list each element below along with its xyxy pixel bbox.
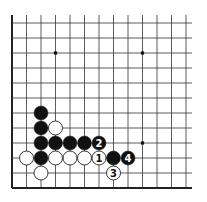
black-stone-move-4: 4	[121, 151, 135, 165]
white-stone	[49, 121, 63, 135]
black-stone	[49, 136, 63, 150]
move-number: 4	[125, 153, 132, 164]
black-stone	[34, 106, 48, 120]
white-stone	[63, 151, 77, 165]
white-stone	[20, 151, 34, 165]
white-stone	[49, 151, 63, 165]
move-number: 3	[110, 168, 117, 179]
white-stone-move-3: 3	[107, 166, 121, 180]
black-stone-move-2: 2	[92, 136, 106, 150]
black-stone	[78, 136, 92, 150]
black-stone	[107, 151, 121, 165]
move-number: 1	[96, 153, 103, 164]
black-stone	[63, 136, 77, 150]
black-stone	[34, 151, 48, 165]
go-board: 2143	[0, 0, 207, 202]
white-stone-move-1: 1	[92, 151, 106, 165]
star-point	[141, 141, 144, 144]
black-stone	[34, 121, 48, 135]
move-number: 2	[96, 138, 103, 149]
black-stone	[34, 136, 48, 150]
white-stone	[34, 166, 48, 180]
star-point	[54, 51, 57, 54]
star-point	[141, 51, 144, 54]
white-stone	[78, 151, 92, 165]
